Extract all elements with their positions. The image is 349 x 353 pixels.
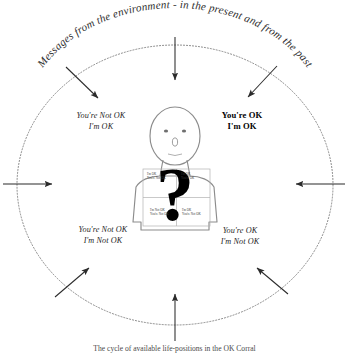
quadrant-label-top-right: You're OK I'm OK (203, 110, 281, 133)
arrow-se (257, 268, 288, 294)
figure-eye-left (164, 130, 168, 133)
arrow-ne (248, 66, 277, 97)
inner-cell-line-2: You're Not OK (182, 212, 201, 216)
quadrant-line-2: I'm OK (89, 122, 113, 131)
center-question-mark: ? (156, 152, 194, 236)
arrow-sw (55, 268, 89, 297)
quadrant-line-1: You're OK (222, 110, 263, 120)
quadrant-line-2: I'm Not OK (221, 237, 260, 246)
quadrant-line-1: You're Not OK (77, 111, 126, 120)
quadrant-label-top-left: You're Not OK I'm OK (58, 111, 144, 133)
figure-nose (172, 138, 177, 146)
inner-cell-line-2: You're OK (181, 176, 194, 180)
quadrant-line-1: You're OK (223, 226, 258, 235)
figure-caption: The cycle of available life-positions in… (0, 344, 349, 353)
quadrant-line-2: I'm Not OK (84, 236, 123, 245)
quadrant-label-bottom-left: You're Not OK I'm Not OK (57, 225, 149, 247)
quadrant-line-2: I'm OK (227, 121, 256, 131)
quadrant-label-bottom-right: You're OK I'm Not OK (196, 226, 284, 248)
inner-cell-label-top-right: I'm OK You're OK (181, 173, 194, 181)
inner-cell-line-2: You're Not OK (147, 176, 166, 180)
inner-cell-label-top-left: I'm OK You're Not OK (147, 173, 166, 181)
figure-face (164, 130, 186, 133)
inner-cell-label-bottom-left: I'm Not OK You're Not OK (150, 209, 169, 217)
figure-eye-right (182, 130, 186, 133)
inner-cell-line-2: You're Not OK (150, 212, 169, 216)
quadrant-line-1: You're Not OK (79, 225, 128, 234)
diagram-canvas: Messages from the environment - in the p… (0, 0, 349, 353)
inner-cell-label-bottom-right: I'm OK You're Not OK (182, 209, 201, 217)
